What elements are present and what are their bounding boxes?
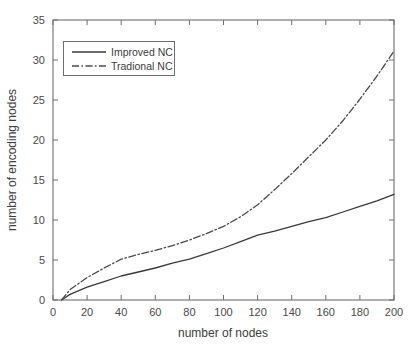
y-tick-label: 5 xyxy=(39,254,45,266)
line-chart: 05101520253035 0204060801001201401601802… xyxy=(0,0,420,348)
x-tick-label: 40 xyxy=(115,306,127,318)
y-axis-title: number of encoding nodes xyxy=(5,89,19,231)
x-tick-label: 200 xyxy=(385,306,403,318)
x-tick-label: 100 xyxy=(214,306,232,318)
y-tick-label: 30 xyxy=(33,54,45,66)
x-tick-label: 180 xyxy=(351,306,369,318)
x-tick-label: 20 xyxy=(81,306,93,318)
y-tick-label: 10 xyxy=(33,214,45,226)
y-tick-label: 35 xyxy=(33,14,45,26)
y-tick-label: 20 xyxy=(33,134,45,146)
chart-figure: 05101520253035 0204060801001201401601802… xyxy=(0,0,420,348)
x-tick-label: 0 xyxy=(50,306,56,318)
y-tick-label: 15 xyxy=(33,174,45,186)
x-tick-label: 80 xyxy=(183,306,195,318)
legend-label-tradional-nc: Tradional NC xyxy=(111,60,173,72)
x-tick-label: 120 xyxy=(248,306,266,318)
x-tick-label: 60 xyxy=(149,306,161,318)
x-tick-label: 140 xyxy=(283,306,301,318)
legend-label-improved-nc: Improved NC xyxy=(111,46,173,58)
chart-legend: Improved NC Tradional NC xyxy=(64,42,175,76)
x-tick-label: 160 xyxy=(317,306,335,318)
x-axis-title: number of nodes xyxy=(178,326,268,340)
y-tick-label: 25 xyxy=(33,94,45,106)
y-tick-label: 0 xyxy=(39,294,45,306)
